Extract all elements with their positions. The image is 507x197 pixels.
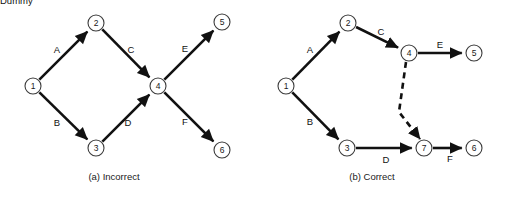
node-a4: 4 xyxy=(150,78,166,94)
edge-label-b-C: C xyxy=(378,26,385,37)
node-b1: 1 xyxy=(278,78,294,94)
node-b6-label: 6 xyxy=(472,143,477,153)
node-a2: 2 xyxy=(88,15,104,31)
edge-label-b-A: A xyxy=(307,44,314,55)
edge-label-a-F: F xyxy=(182,116,188,127)
node-a4-label: 4 xyxy=(156,81,161,91)
node-b4: 4 xyxy=(401,45,417,61)
node-a1-label: 1 xyxy=(31,81,36,91)
edge-label-b-dummy: Dummy xyxy=(0,0,33,6)
node-a3: 3 xyxy=(88,140,104,156)
edge-label-a-B: B xyxy=(54,117,60,128)
panel-a-incorrect: 1 2 3 4 5 xyxy=(25,14,230,182)
edge-a-E xyxy=(164,31,213,80)
panel-b-correct: 1 2 3 4 5 xyxy=(0,0,482,182)
node-b3-label: 3 xyxy=(345,143,350,153)
diagram-canvas: 1 2 3 4 5 xyxy=(0,0,507,197)
node-b2: 2 xyxy=(340,15,356,31)
node-a2-label: 2 xyxy=(94,18,99,28)
node-a3-label: 3 xyxy=(94,143,99,153)
edge-label-a-A: A xyxy=(54,44,61,55)
node-b2-label: 2 xyxy=(346,18,351,28)
edge-label-b-E: E xyxy=(437,39,443,50)
node-a6-label: 6 xyxy=(220,145,225,155)
edge-a-F xyxy=(164,92,213,141)
panel-b-caption: (b) Correct xyxy=(349,171,395,182)
edge-a-B xyxy=(39,92,87,139)
node-a5: 5 xyxy=(214,14,230,30)
node-b4-label: 4 xyxy=(407,48,412,58)
node-b5: 5 xyxy=(466,45,482,61)
panel-a-caption: (a) Incorrect xyxy=(88,171,140,182)
edge-a-A xyxy=(39,32,87,80)
edge-label-a-C: C xyxy=(128,44,135,55)
edge-label-b-B: B xyxy=(307,116,313,127)
edge-b-dummy xyxy=(399,62,420,139)
edge-label-a-E: E xyxy=(182,43,188,54)
node-a1: 1 xyxy=(25,78,41,94)
node-a5-label: 5 xyxy=(220,17,225,27)
node-b6: 6 xyxy=(466,140,482,156)
panel-a-edge-labels: A B C D E F xyxy=(54,43,188,128)
edge-b-B xyxy=(292,92,338,139)
node-b1-label: 1 xyxy=(284,81,289,91)
edge-label-b-D: D xyxy=(383,154,390,165)
node-b5-label: 5 xyxy=(472,48,477,58)
edge-label-a-D: D xyxy=(125,117,132,128)
edge-b-A xyxy=(292,32,339,80)
edge-a-C xyxy=(102,29,149,77)
node-b7: 7 xyxy=(416,140,432,156)
edge-label-b-F: F xyxy=(447,153,453,164)
node-b7-label: 7 xyxy=(422,143,427,153)
node-b3: 3 xyxy=(339,140,355,156)
network-diagram-figure: 1 2 3 4 5 xyxy=(0,0,507,197)
panel-a-nodes: 1 2 3 4 5 xyxy=(25,14,230,158)
node-a6: 6 xyxy=(214,142,230,158)
